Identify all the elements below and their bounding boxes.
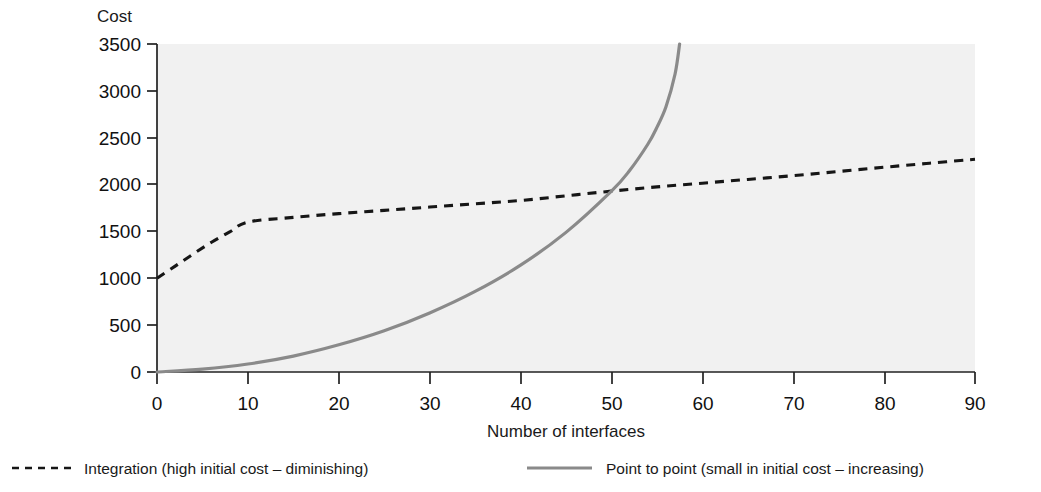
y-tick-label-2500: 2500 <box>99 128 141 149</box>
x-tick-label-0: 0 <box>152 393 163 414</box>
y-tick-label-0: 0 <box>130 362 141 383</box>
cost-vs-interfaces-chart: Cost 0 500 1000 1500 2000 2500 3000 3500 <box>0 0 1041 492</box>
x-tick-label-60: 60 <box>692 393 713 414</box>
x-tick-label-70: 70 <box>783 393 804 414</box>
x-tick-label-20: 20 <box>328 393 349 414</box>
x-tick-label-30: 30 <box>419 393 440 414</box>
y-tick-label-1500: 1500 <box>99 221 141 242</box>
y-tick-label-2000: 2000 <box>99 174 141 195</box>
plot-background <box>157 44 975 372</box>
x-tick-label-50: 50 <box>601 393 622 414</box>
y-axis-title: Cost <box>97 7 132 26</box>
y-tick-label-500: 500 <box>109 315 141 336</box>
x-tick-label-10: 10 <box>237 393 258 414</box>
x-tick-label-90: 90 <box>964 393 985 414</box>
y-tick-label-3000: 3000 <box>99 81 141 102</box>
chart-legend: Integration (high initial cost – diminis… <box>12 460 924 477</box>
x-axis-ticks: 0 10 20 30 40 50 60 70 80 90 <box>152 372 986 414</box>
y-tick-label-1000: 1000 <box>99 268 141 289</box>
x-tick-label-40: 40 <box>510 393 531 414</box>
x-axis-title: Number of interfaces <box>487 422 645 441</box>
chart-figure: Cost 0 500 1000 1500 2000 2500 3000 3500 <box>0 0 1041 492</box>
legend-label-point-to-point: Point to point (small in initial cost – … <box>606 460 924 477</box>
y-axis-ticks: 0 500 1000 1500 2000 2500 3000 3500 <box>99 34 157 383</box>
y-tick-label-3500: 3500 <box>99 34 141 55</box>
x-tick-label-80: 80 <box>874 393 895 414</box>
legend-label-integration: Integration (high initial cost – diminis… <box>84 460 368 477</box>
